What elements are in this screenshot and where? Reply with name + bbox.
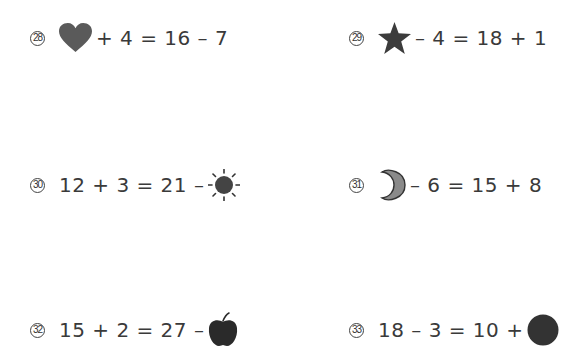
equation-text: 12 + 3 = 21 – — [59, 173, 204, 197]
equation-text: – 6 = 15 + 8 — [410, 173, 542, 197]
heart-icon — [59, 23, 92, 53]
moon-icon — [378, 169, 406, 201]
apple-icon — [208, 312, 238, 348]
problem-number: 31 — [349, 178, 364, 193]
problem-32: 32 15 + 2 = 27 – — [30, 310, 238, 350]
equation-text: + 4 = 16 – 7 — [96, 26, 228, 50]
equation-text: 15 + 2 = 27 – — [59, 318, 204, 342]
equation-text: – 4 = 18 + 1 — [415, 26, 547, 50]
problem-30: 30 12 + 3 = 21 – — [30, 165, 240, 205]
problem-28: 28 + 4 = 16 – 7 — [30, 18, 228, 58]
problem-number: 32 — [30, 323, 45, 338]
equation-text: 18 – 3 = 10 + — [378, 318, 523, 342]
problem-number: 28 — [30, 31, 45, 46]
star-icon — [378, 22, 411, 54]
sun-icon — [208, 169, 240, 201]
problem-33: 33 18 – 3 = 10 + — [349, 310, 559, 350]
problem-29: 29 – 4 = 18 + 1 — [349, 18, 547, 58]
circle-icon — [527, 314, 559, 346]
problem-number: 33 — [349, 323, 364, 338]
problem-number: 29 — [349, 31, 364, 46]
problem-number: 30 — [30, 178, 45, 193]
problem-31: 31 – 6 = 15 + 8 — [349, 165, 542, 205]
